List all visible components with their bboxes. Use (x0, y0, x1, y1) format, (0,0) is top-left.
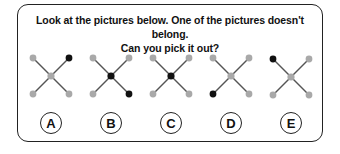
end-dot-top-right (186, 55, 193, 62)
figure-d (210, 55, 253, 98)
end-dot-bottom-left (150, 91, 157, 98)
center-dot (47, 72, 54, 79)
center-dot (227, 72, 234, 79)
end-dot-bottom-left (270, 92, 277, 99)
end-dot-bottom-right (126, 91, 133, 98)
end-dot-bottom-right (66, 91, 73, 98)
end-dot-bottom-right (306, 92, 313, 99)
end-dot-bottom-left (210, 91, 217, 98)
figure-b (90, 55, 133, 98)
option-a-button[interactable]: A (40, 112, 62, 134)
figure-c (150, 55, 193, 98)
end-dot-top-right (306, 56, 313, 63)
figure-a (30, 55, 73, 98)
option-b-button[interactable]: B (100, 112, 122, 134)
end-dot-bottom-left (90, 91, 97, 98)
end-dot-top-left (150, 55, 157, 62)
center-dot (107, 72, 114, 79)
end-dot-top-left (90, 55, 97, 62)
center-dot (167, 72, 174, 79)
center-dot (287, 73, 294, 80)
figure-e (270, 56, 313, 99)
end-dot-bottom-left (30, 91, 37, 98)
end-dot-top-right (126, 55, 133, 62)
end-dot-top-right (246, 55, 253, 62)
option-e-button[interactable]: E (280, 112, 302, 134)
end-dot-top-left (270, 56, 277, 63)
end-dot-top-left (30, 55, 37, 62)
option-c-button[interactable]: C (160, 112, 182, 134)
end-dot-bottom-right (186, 91, 193, 98)
end-dot-top-right (66, 55, 73, 62)
option-d-button[interactable]: D (220, 112, 242, 134)
end-dot-bottom-right (246, 91, 253, 98)
end-dot-top-left (210, 55, 217, 62)
